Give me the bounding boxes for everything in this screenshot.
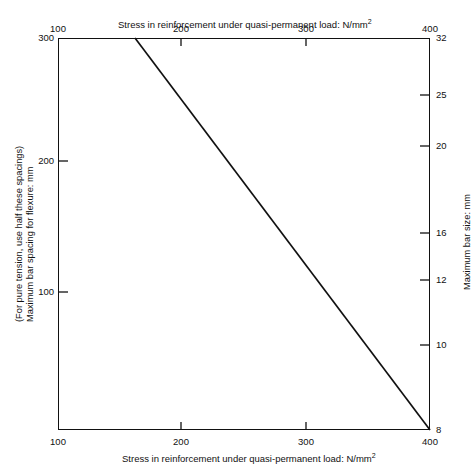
- left-axis-title-line2: Maximum bar spacing for flexure: mm: [25, 166, 36, 322]
- plot-area: [58, 38, 430, 430]
- right-tick-label-10: 10: [436, 340, 447, 350]
- left-axis-title-line1: (For pure tension, use half these spacin…: [14, 146, 25, 322]
- top-axis-title-text: Stress in reinforcement under quasi-perm…: [118, 19, 368, 30]
- right-tick-label-32: 32: [436, 33, 447, 43]
- bottom-tick-label-200: 200: [170, 437, 192, 447]
- top-tick-label-300: 300: [295, 24, 317, 34]
- bottom-tick-label-100: 100: [47, 437, 69, 447]
- bottom-tick-label-300: 300: [295, 437, 317, 447]
- right-tick-label-20: 20: [436, 141, 447, 151]
- right-tick-label-25: 25: [436, 90, 447, 100]
- bottom-axis-title-text: Stress in reinforcement under quasi-perm…: [122, 453, 372, 464]
- bottom-tick-label-400: 400: [419, 437, 441, 447]
- top-axis-title-superscript: 2: [368, 18, 372, 25]
- right-axis-title: Maximum bar size: mm: [462, 194, 473, 290]
- right-tick-label-12: 12: [436, 275, 447, 285]
- right-tick-label-8: 8: [436, 425, 441, 435]
- top-tick-label-200: 200: [170, 24, 192, 34]
- bottom-axis-title-superscript: 2: [372, 452, 376, 459]
- top-axis-title: Stress in reinforcement under quasi-perm…: [118, 18, 372, 30]
- right-tick-label-16: 16: [436, 228, 447, 238]
- bottom-axis-title: Stress in reinforcement under quasi-perm…: [122, 452, 376, 464]
- left-tick-label-200: 200: [26, 156, 54, 166]
- chart-figure: Stress in reinforcement under quasi-perm…: [0, 0, 473, 469]
- left-tick-label-300: 300: [26, 33, 54, 43]
